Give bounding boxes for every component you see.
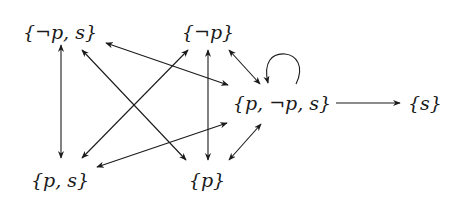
- state-diagram: {¬p, s} {¬p} {p, ¬p, s} {s} {p, s} {p}: [0, 0, 469, 211]
- node-neg-p: {¬p}: [182, 23, 234, 42]
- node-s: {s}: [408, 94, 442, 113]
- node-neg-p-s: {¬p, s}: [23, 23, 97, 42]
- node-p-s: {p, s}: [31, 171, 89, 190]
- edge-neg-p-s-to-p-neg-p-s: [106, 43, 228, 85]
- edge-neg-p-to-p-neg-p-s: [229, 50, 260, 84]
- node-p: {p}: [189, 171, 225, 190]
- self-loop-p-neg-p-s: [267, 54, 300, 84]
- edge-p-to-p-neg-p-s: [229, 124, 261, 160]
- node-p-neg-p-s: {p, ¬p, s}: [233, 94, 331, 113]
